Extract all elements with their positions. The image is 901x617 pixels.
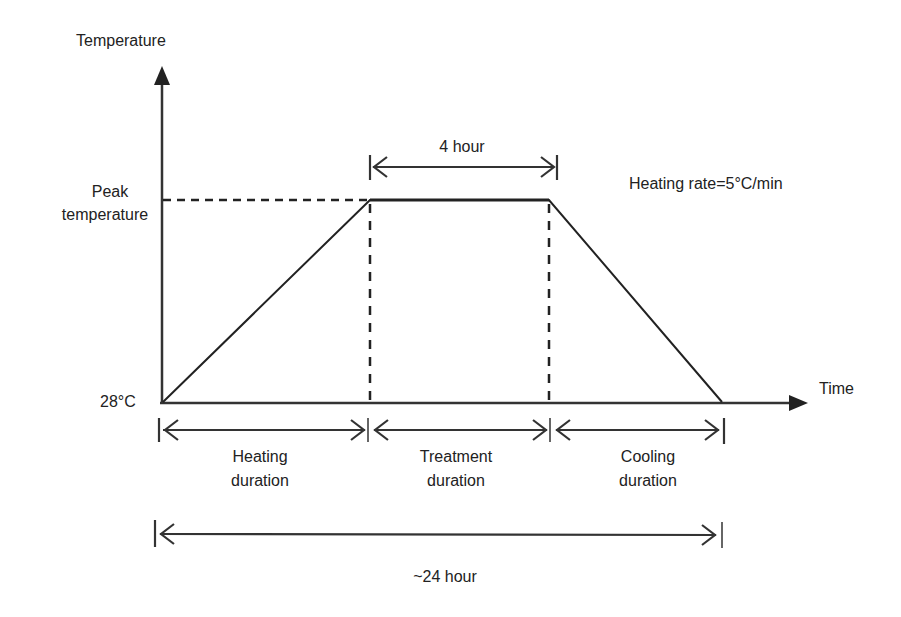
y-axis-label: Temperature — [76, 31, 166, 51]
total-duration-arrow — [155, 520, 722, 548]
peak-temperature-label: Peak temperature — [60, 180, 160, 226]
cooling-duration-arrow — [556, 418, 724, 444]
heating-duration-arrow — [159, 418, 368, 442]
heating-duration-label-line1: Heating — [190, 445, 330, 469]
peak-temperature-label-line1: Peak — [60, 180, 160, 203]
diagram-canvas — [0, 0, 901, 617]
heating-duration-label-line2: duration — [190, 469, 330, 493]
heating-rate-label: Heating rate=5°C/min — [629, 174, 783, 194]
treatment-duration-arrow — [374, 418, 550, 442]
peak-temperature-label-line2: temperature — [50, 203, 160, 226]
cooling-duration-label-line2: duration — [578, 469, 718, 493]
x-axis-arrowhead-icon — [789, 395, 808, 411]
cooling-duration-label-line1: Cooling — [578, 445, 718, 469]
y-axis-arrowhead-icon — [154, 66, 170, 85]
treatment-span-label: 4 hour — [412, 137, 512, 157]
temperature-profile-line — [163, 200, 722, 402]
total-duration-label: ~24 hour — [370, 567, 520, 587]
treatment-span-arrow — [370, 155, 557, 180]
treatment-duration-label: Treatment duration — [386, 445, 526, 493]
y-axis — [154, 66, 170, 404]
x-axis-label: Time — [819, 379, 854, 399]
treatment-duration-label-line1: Treatment — [386, 445, 526, 469]
heating-duration-label: Heating duration — [190, 445, 330, 493]
base-temperature-label: 28°C — [100, 392, 136, 412]
x-axis — [160, 395, 808, 411]
treatment-duration-label-line2: duration — [386, 469, 526, 493]
cooling-duration-label: Cooling duration — [578, 445, 718, 493]
